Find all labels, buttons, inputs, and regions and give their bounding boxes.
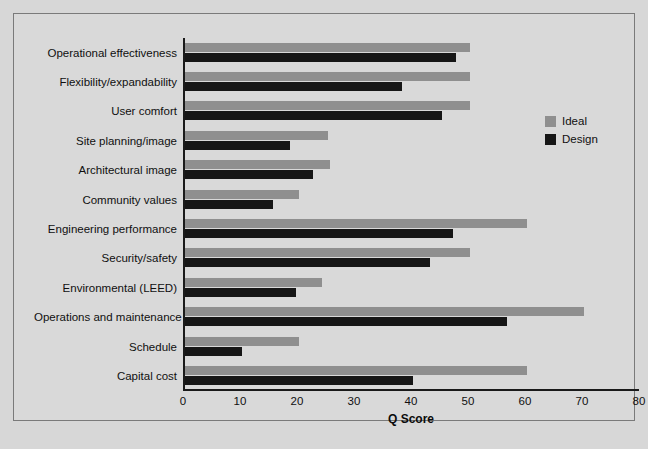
bar-ideal: [185, 131, 328, 140]
x-tick-label: 60: [505, 395, 545, 407]
chart-legend: IdealDesign: [545, 113, 625, 149]
bar-design: [185, 111, 442, 120]
bar-ideal: [185, 43, 470, 52]
bar-design: [185, 82, 402, 91]
bar-design: [185, 53, 456, 62]
legend-swatch-icon: [545, 134, 556, 145]
bar-ideal: [185, 337, 299, 346]
legend-label: Ideal: [562, 115, 587, 127]
legend-item: Ideal: [545, 113, 625, 129]
legend-swatch-icon: [545, 116, 556, 127]
x-tick-label: 10: [220, 395, 260, 407]
bar-design: [185, 347, 242, 356]
category-label: Security/safety: [34, 252, 177, 264]
bar-design: [185, 288, 296, 297]
category-label: Community values: [34, 194, 177, 206]
category-label: Flexibility/expandability: [34, 76, 177, 88]
category-label: Capital cost: [34, 370, 177, 382]
bar-ideal: [185, 101, 470, 110]
legend-label: Design: [562, 133, 598, 145]
bar-ideal: [185, 190, 299, 199]
bar-ideal: [185, 72, 470, 81]
chart-frame: Operational effectivenessFlexibility/exp…: [13, 13, 635, 421]
bar-ideal: [185, 366, 527, 375]
legend-item: Design: [545, 131, 625, 147]
category-label: User comfort: [34, 105, 177, 117]
category-label: Environmental (LEED): [34, 282, 177, 294]
x-tick-label: 30: [334, 395, 374, 407]
bar-design: [185, 200, 273, 209]
x-axis-ticks: 01020304050607080: [183, 395, 639, 413]
bar-ideal: [185, 278, 322, 287]
plot-area: [183, 38, 639, 391]
bar-design: [185, 141, 290, 150]
x-tick-label: 50: [448, 395, 488, 407]
chart-figure: Operational effectivenessFlexibility/exp…: [0, 0, 648, 449]
bar-design: [185, 229, 453, 238]
bar-design: [185, 258, 430, 267]
bar-design: [185, 170, 313, 179]
category-label: Operational effectiveness: [34, 47, 177, 59]
category-label: Engineering performance: [34, 223, 177, 235]
x-tick-label: 70: [562, 395, 602, 407]
x-tick-label: 80: [619, 395, 648, 407]
x-tick-label: 40: [391, 395, 431, 407]
category-label: Architectural image: [34, 164, 177, 176]
bar-ideal: [185, 248, 470, 257]
x-axis-line: [183, 389, 639, 391]
category-label: Schedule: [34, 341, 177, 353]
bar-design: [185, 317, 507, 326]
bar-ideal: [185, 160, 330, 169]
x-axis-title: Q Score: [183, 412, 639, 426]
bar-design: [185, 376, 413, 385]
x-tick-label: 0: [163, 395, 203, 407]
category-label: Site planning/image: [34, 135, 177, 147]
category-label: Operations and maintenance: [34, 311, 177, 323]
bar-ideal: [185, 219, 527, 228]
x-tick-label: 20: [277, 395, 317, 407]
category-axis-labels: Operational effectivenessFlexibility/exp…: [34, 38, 177, 391]
bar-ideal: [185, 307, 584, 316]
